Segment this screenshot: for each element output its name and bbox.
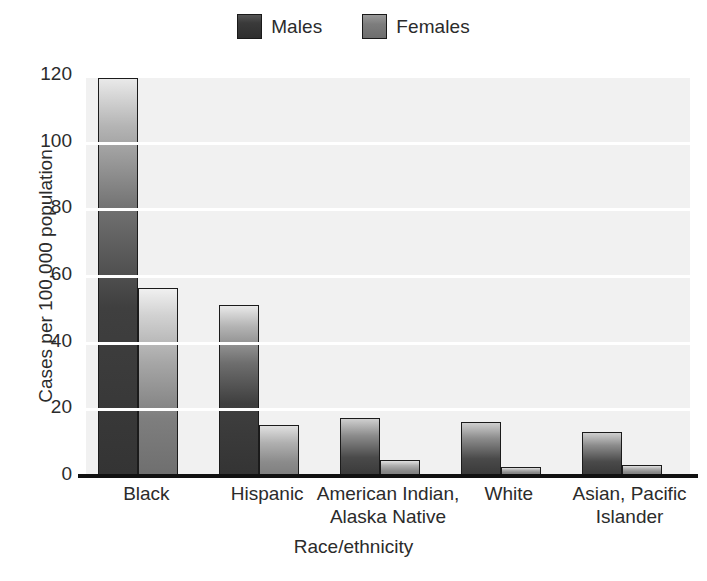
- y-tick-label: 80: [0, 196, 72, 218]
- gridline: [86, 142, 690, 145]
- bar-females-0: [138, 288, 178, 475]
- y-tick-label: 40: [0, 330, 72, 352]
- bar-females-1: [259, 425, 299, 475]
- x-axis-title: Race/ethnicity: [0, 536, 707, 558]
- y-tick-label: 20: [0, 396, 72, 418]
- bar-males-2: [340, 418, 380, 475]
- x-category-label-line: Islander: [549, 505, 707, 528]
- legend-swatch-females-icon: [362, 14, 387, 39]
- x-category-label-line: Alaska Native: [308, 505, 469, 528]
- legend-swatch-males-icon: [237, 14, 262, 39]
- bar-chart: Males Females Cases per 100,000 populati…: [0, 0, 707, 581]
- bar-males-4: [582, 432, 622, 475]
- y-tick-label: 60: [0, 263, 72, 285]
- bar-females-2: [380, 460, 420, 475]
- legend-label-males: Males: [271, 16, 322, 38]
- bar-males-1: [219, 305, 259, 475]
- gridline: [86, 208, 690, 211]
- y-tick-label: 100: [0, 130, 72, 152]
- y-tick-label: 0: [0, 463, 72, 485]
- x-axis-category-labels: BlackHispanicAmerican Indian,Alaska Nati…: [86, 482, 690, 542]
- legend-entry-females: Females: [362, 14, 470, 39]
- legend-label-females: Females: [396, 16, 470, 38]
- gridline: [86, 275, 690, 278]
- chart-legend: Males Females: [0, 14, 707, 39]
- y-tick-label: 120: [0, 63, 72, 85]
- x-axis-line: [78, 474, 698, 478]
- gridline: [86, 342, 690, 345]
- gridline: [86, 408, 690, 411]
- bar-males-3: [461, 422, 501, 475]
- x-category-label: Asian, PacificIslander: [549, 482, 707, 528]
- gridline: [86, 75, 690, 78]
- plot-area: [86, 75, 690, 475]
- x-category-label-line: Asian, Pacific: [549, 482, 707, 505]
- legend-entry-males: Males: [237, 14, 322, 39]
